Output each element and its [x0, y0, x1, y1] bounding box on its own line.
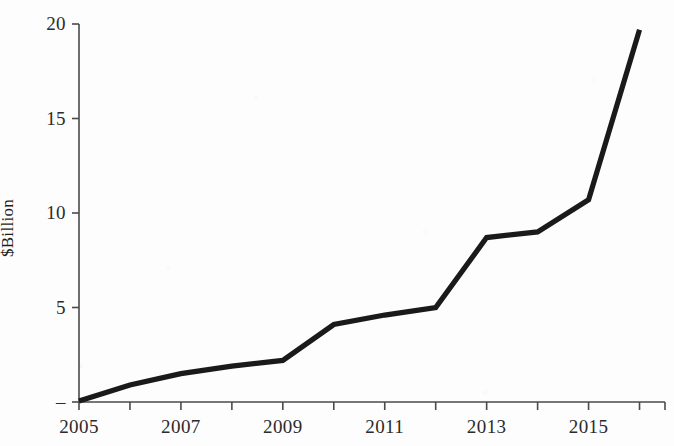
chart-plot-area	[0, 0, 674, 446]
x-axis-tick-label: 2005	[59, 416, 99, 438]
line-chart: –5101520 200520072009201120132015 $Billi…	[0, 0, 674, 446]
y-axis-title: $Billion	[0, 199, 18, 257]
data-series-line	[79, 30, 640, 401]
y-axis-tick-label: –	[56, 391, 66, 413]
x-axis-ticks	[79, 402, 665, 410]
y-axis-tick-label: 15	[46, 108, 66, 130]
y-axis-tick-label: 20	[46, 13, 66, 35]
x-axis-tick-label: 2007	[161, 416, 201, 438]
x-axis-tick-label: 2009	[263, 416, 303, 438]
y-axis-tick-label: 10	[46, 202, 66, 224]
y-axis-tick-label: 5	[56, 297, 66, 319]
x-axis-tick-label: 2013	[467, 416, 507, 438]
x-axis-tick-label: 2015	[569, 416, 609, 438]
x-axis-tick-label: 2011	[365, 416, 404, 438]
y-axis-ticks	[72, 24, 79, 402]
